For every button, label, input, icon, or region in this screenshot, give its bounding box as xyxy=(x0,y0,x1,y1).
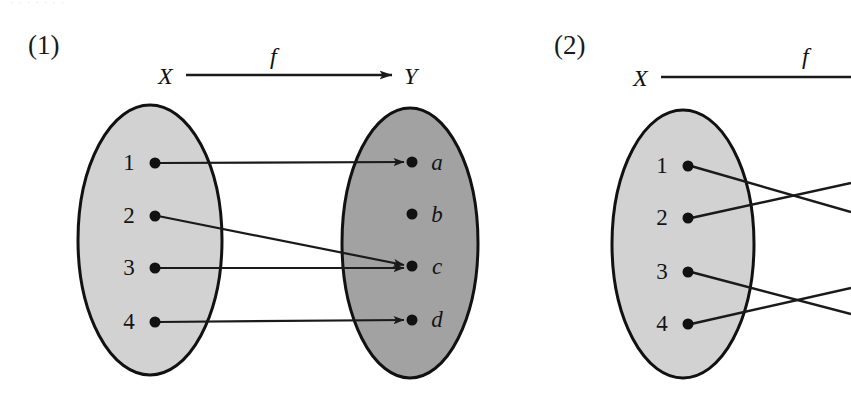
diagram-1-codomain-node-label-b: b xyxy=(426,203,448,226)
diagram-1-edge-1-a xyxy=(158,162,404,163)
diagram-1-domain-node-label-1: 1 xyxy=(118,151,140,174)
diagram-2-domain-node-label-2: 2 xyxy=(651,206,673,229)
diagram-2-domain-ellipse xyxy=(612,110,754,378)
diagram-1-domain-node-dot-1 xyxy=(150,158,161,169)
diagram-2-domain-node-dot-4 xyxy=(683,319,694,330)
diagram-2-graphics xyxy=(540,0,851,411)
diagram-2-domain-node-label-1: 1 xyxy=(651,154,673,177)
diagram-1-codomain-node-dot-a xyxy=(407,157,418,168)
diagram-1-codomain-node-label-c: c xyxy=(426,255,448,278)
diagram-1-domain-node-dot-3 xyxy=(150,263,161,274)
diagram-2-domain-node-dot-3 xyxy=(683,267,694,278)
diagram-1: (1) X f Y xyxy=(0,0,540,411)
diagram-1-domain-node-dot-4 xyxy=(150,317,161,328)
diagram-2-domain-node-dot-2 xyxy=(683,213,694,224)
diagram-2-domain-node-label-3: 3 xyxy=(651,260,673,283)
diagram-1-domain-node-label-2: 2 xyxy=(118,204,140,227)
diagram-1-codomain-ellipse xyxy=(342,108,478,378)
diagram-2: (2) X f 1 2 3 4 xyxy=(540,0,851,411)
diagram-1-graphics xyxy=(0,0,540,411)
diagram-1-codomain-node-dot-d xyxy=(407,315,418,326)
diagram-1-domain-node-label-3: 3 xyxy=(118,256,140,279)
diagram-1-domain-node-label-4: 4 xyxy=(118,310,140,333)
diagram-1-domain-ellipse xyxy=(78,105,222,375)
diagram-1-codomain-node-dot-c xyxy=(407,261,418,272)
diagram-1-codomain-node-label-d: d xyxy=(426,308,448,331)
figure-canvas: · · · · · · · (1) X f Y xyxy=(0,0,851,411)
diagram-2-domain-node-label-4: 4 xyxy=(651,312,673,335)
diagram-2-domain-node-dot-1 xyxy=(683,161,694,172)
diagram-1-domain-node-dot-2 xyxy=(150,211,161,222)
diagram-1-codomain-node-label-a: a xyxy=(426,151,448,174)
diagram-1-codomain-node-dot-b xyxy=(407,209,418,220)
